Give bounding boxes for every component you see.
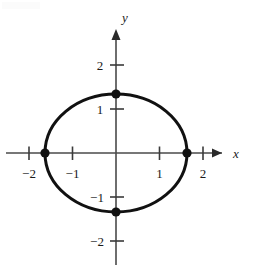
x-tick-label-pos1: 1 xyxy=(156,166,163,181)
y-tick-label-pos1: 1 xyxy=(97,102,104,117)
x-axis-label: x xyxy=(232,146,239,161)
y-axis-arrow-icon xyxy=(112,29,121,40)
vertex-point-bottom xyxy=(111,207,120,216)
vertex-point-top xyxy=(111,89,120,98)
y-tick-label-pos2: 2 xyxy=(97,58,104,73)
y-tick-label-neg2: −2 xyxy=(90,234,104,249)
vertex-point-right xyxy=(182,148,191,157)
y-axis-label: y xyxy=(120,10,128,25)
ellipse-graph-figure: −2 −1 1 2 2 1 −1 −2 x y xyxy=(0,0,276,271)
coordinate-plane: −2 −1 1 2 2 1 −1 −2 x y xyxy=(0,0,276,271)
y-tick-label-neg1: −1 xyxy=(90,190,104,205)
vertex-point-left xyxy=(40,148,49,157)
x-tick-label-neg1: −1 xyxy=(66,166,80,181)
x-tick-label-neg2: −2 xyxy=(22,166,36,181)
x-axis-arrow-icon xyxy=(212,149,222,158)
x-tick-label-pos2: 2 xyxy=(200,166,207,181)
